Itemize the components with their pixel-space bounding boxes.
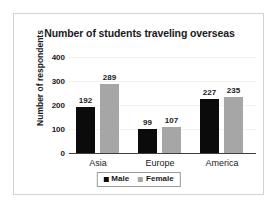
legend-label-female: Female xyxy=(146,174,174,184)
bar-asia-male[interactable]: 192 xyxy=(76,107,95,153)
bar-europe-female[interactable]: 107 xyxy=(162,127,181,153)
bar-value-america-male: 227 xyxy=(203,88,216,97)
chart-figure-frame: Number of students traveling overseas Nu… xyxy=(13,13,264,195)
legend-swatch-male-icon xyxy=(103,177,108,182)
y-axis-title: Number of respondents xyxy=(34,28,46,128)
chart-title: Number of students traveling overseas xyxy=(14,27,265,39)
legend-item-male[interactable]: Male xyxy=(103,174,129,184)
bar-value-asia-male: 192 xyxy=(79,96,92,105)
bar-value-europe-male: 99 xyxy=(143,118,152,127)
bar-group-europe: 99 107 Europe xyxy=(131,57,193,153)
x-tick-label-america: America xyxy=(205,158,238,168)
bar-group-asia: 192 289 Asia xyxy=(69,57,131,153)
bar-europe-male[interactable]: 99 xyxy=(138,129,157,153)
bar-group-america: 227 235 America xyxy=(193,57,255,153)
legend-label-male: Male xyxy=(111,174,129,184)
y-tick-label-200: 200 xyxy=(52,101,65,110)
legend-item-female[interactable]: Female xyxy=(138,174,174,184)
chart-legend: Male Female xyxy=(96,172,180,187)
y-tick-label-300: 300 xyxy=(52,77,65,86)
bar-value-asia-female: 289 xyxy=(103,73,116,82)
bar-value-america-female: 235 xyxy=(227,86,240,95)
x-tick-label-europe: Europe xyxy=(145,158,174,168)
bar-america-male[interactable]: 227 xyxy=(200,99,219,153)
y-tick-label-100: 100 xyxy=(52,125,65,134)
bar-value-europe-female: 107 xyxy=(165,116,178,125)
y-tick-label-0: 0 xyxy=(61,149,65,158)
y-tick-label-400: 400 xyxy=(52,53,65,62)
x-tick-label-asia: Asia xyxy=(89,158,107,168)
bar-america-female[interactable]: 235 xyxy=(224,97,243,153)
bar-asia-female[interactable]: 289 xyxy=(100,84,119,153)
legend-swatch-female-icon xyxy=(138,177,143,182)
plot-area: 400 300 200 100 0 192 289 Asia 99 107 Eu… xyxy=(69,57,256,153)
